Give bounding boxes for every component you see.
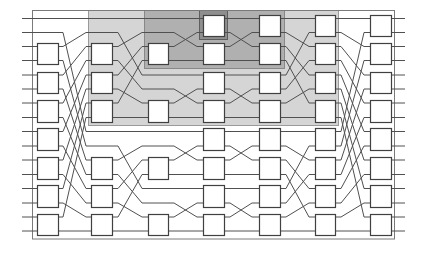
switch-box [371, 16, 392, 37]
switch-box [92, 158, 113, 180]
switch-box [149, 158, 169, 180]
switch-box [204, 44, 225, 65]
switch-box [38, 101, 59, 123]
switch-box [316, 101, 336, 123]
switch-column-stage-7 [371, 16, 392, 236]
switch-box [316, 186, 336, 208]
switch-box [316, 16, 336, 37]
switch-box [260, 158, 281, 180]
network-svg [0, 0, 427, 254]
switch-box [371, 44, 392, 65]
switch-box [38, 44, 59, 65]
switch-box [316, 73, 336, 94]
switch-box [204, 158, 225, 180]
switch-box [260, 101, 281, 123]
switch-box [371, 186, 392, 208]
switch-box [38, 73, 59, 94]
switch-box [260, 186, 281, 208]
switch-column-stage-1 [38, 44, 59, 236]
switch-box [260, 16, 281, 37]
switch-box [149, 101, 169, 123]
switch-box [92, 186, 113, 208]
switch-box [260, 129, 281, 151]
switch-box [316, 215, 336, 236]
switch-box [38, 129, 59, 151]
switch-box [260, 215, 281, 236]
switch-box [204, 215, 225, 236]
switch-box [204, 16, 225, 37]
switch-box [204, 101, 225, 123]
switch-box [260, 73, 281, 94]
switch-box [38, 186, 59, 208]
switch-box [38, 215, 59, 236]
switch-box [92, 44, 113, 65]
switch-box [371, 158, 392, 180]
switch-box [371, 215, 392, 236]
switch-box [260, 44, 281, 65]
switch-column-stage-2 [92, 44, 113, 236]
switch-box [92, 73, 113, 94]
switch-box [92, 101, 113, 123]
switch-box [316, 158, 336, 180]
switch-box [38, 158, 59, 180]
network-diagram [0, 0, 427, 254]
switch-box [204, 73, 225, 94]
switch-box [371, 101, 392, 123]
switch-box [316, 129, 336, 151]
switch-box [149, 215, 169, 236]
switch-box [149, 44, 169, 65]
switch-box [371, 129, 392, 151]
switch-box [204, 186, 225, 208]
switch-box [204, 129, 225, 151]
switch-box [371, 73, 392, 94]
switch-box [92, 215, 113, 236]
switch-box [316, 44, 336, 65]
